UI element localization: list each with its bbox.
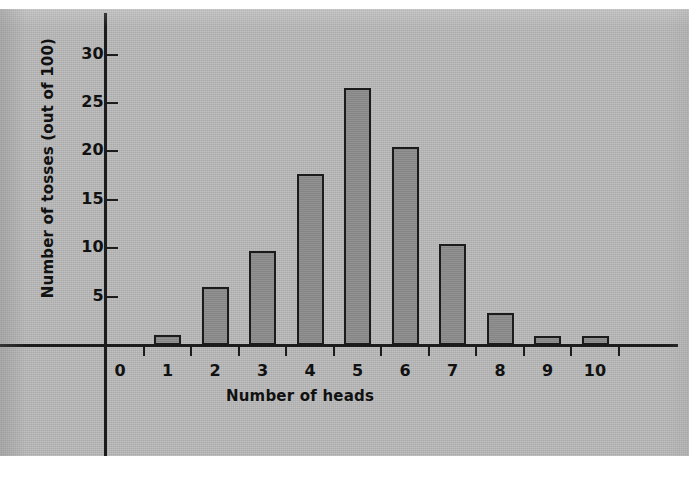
x-axis-tick-label: 3 bbox=[243, 361, 283, 380]
x-axis-title: Number of heads bbox=[0, 387, 600, 405]
y-axis-tick-label-wrap: 25 bbox=[52, 92, 104, 112]
x-axis-tick bbox=[380, 347, 382, 356]
x-axis-tick-label: 8 bbox=[480, 361, 520, 380]
x-axis-tick-label: 9 bbox=[528, 361, 568, 380]
y-axis-title: Number of tosses (out of 100) bbox=[39, 28, 57, 308]
x-axis-tick-label: 0 bbox=[100, 361, 140, 380]
y-axis-tick-label: 15 bbox=[58, 189, 104, 208]
x-axis-tick bbox=[475, 347, 477, 356]
bar bbox=[249, 251, 276, 345]
x-axis-tick bbox=[143, 347, 145, 356]
x-axis-tick bbox=[190, 347, 192, 356]
x-axis-tick-label: 7 bbox=[433, 361, 473, 380]
x-axis-tick-label: 10 bbox=[575, 361, 615, 380]
bar bbox=[202, 287, 229, 345]
y-axis-tick bbox=[107, 102, 118, 104]
x-axis-tick bbox=[333, 347, 335, 356]
chart-plot-area: 51015202530 012345678910 Number of tosse… bbox=[0, 9, 689, 456]
y-axis-title-wrap: Number of tosses (out of 100) bbox=[0, 9, 1, 10]
y-axis-tick-label-wrap: 30 bbox=[52, 44, 104, 64]
y-axis-tick-label: 30 bbox=[58, 44, 104, 63]
bar bbox=[534, 336, 561, 345]
y-axis-tick bbox=[107, 54, 118, 56]
y-axis-tick-label-wrap: 15 bbox=[52, 189, 104, 209]
y-axis-tick-label: 25 bbox=[58, 92, 104, 111]
y-axis-tick bbox=[107, 247, 118, 249]
x-axis-tick-label: 2 bbox=[195, 361, 235, 380]
y-axis-tick-label-wrap: 20 bbox=[52, 140, 104, 160]
x-axis-tick-label: 5 bbox=[338, 361, 378, 380]
x-axis-tick-label: 6 bbox=[385, 361, 425, 380]
y-axis-tick-label: 10 bbox=[58, 237, 104, 256]
y-axis-tick bbox=[107, 150, 118, 152]
x-axis-tick bbox=[523, 347, 525, 356]
x-axis-tick bbox=[428, 347, 430, 356]
x-axis-tick bbox=[570, 347, 572, 356]
y-axis-tick-label: 20 bbox=[58, 140, 104, 159]
y-axis-tick bbox=[107, 199, 118, 201]
y-axis-tick-label: 5 bbox=[58, 286, 104, 305]
y-axis-tick-label-wrap: 5 bbox=[52, 286, 104, 306]
x-axis-tick-label: 4 bbox=[290, 361, 330, 380]
bar bbox=[344, 88, 371, 345]
page-background: 51015202530 012345678910 Number of tosse… bbox=[0, 9, 689, 456]
scanned-figure: 51015202530 012345678910 Number of tosse… bbox=[0, 0, 700, 489]
x-axis-tick bbox=[618, 347, 620, 356]
bar bbox=[487, 313, 514, 345]
x-axis-line bbox=[0, 344, 678, 347]
y-axis-tick-label-wrap: 10 bbox=[52, 237, 104, 257]
x-axis-tick-label: 1 bbox=[148, 361, 188, 380]
bar bbox=[154, 335, 181, 345]
x-axis-tick bbox=[285, 347, 287, 356]
bar bbox=[392, 147, 419, 345]
bar bbox=[439, 244, 466, 345]
x-axis-tick bbox=[238, 347, 240, 356]
y-axis-tick bbox=[107, 296, 118, 298]
bar bbox=[297, 174, 324, 345]
bar bbox=[582, 336, 609, 345]
